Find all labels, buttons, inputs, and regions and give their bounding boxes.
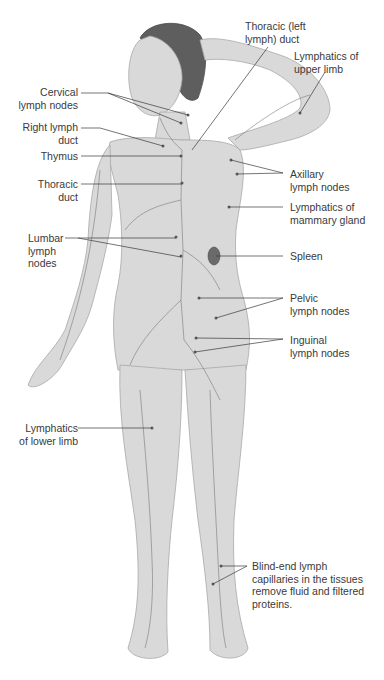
label-blind-end-capillaries: Blind-end lymph capillaries in the tissu…	[252, 560, 364, 610]
label-inguinal-lymph-nodes: Inguinal lymph nodes	[290, 334, 350, 359]
label-axillary-lymph-nodes: Axillary lymph nodes	[290, 168, 350, 193]
label-spleen: Spleen	[290, 250, 323, 263]
label-pelvic-lymph-nodes: Pelvic lymph nodes	[290, 292, 350, 317]
label-lymphatics-lower-limb: Lymphatics of lower limb	[19, 422, 78, 447]
label-right-lymph-duct: Right lymph duct	[23, 121, 78, 146]
label-lymphatics-upper-limb: Lymphatics of upper limb	[294, 50, 358, 75]
label-lymphatics-mammary-gland: Lymphatics of mammary gland	[290, 201, 365, 226]
label-thymus: Thymus	[41, 150, 78, 163]
label-cervical-lymph-nodes: Cervical lymph nodes	[18, 86, 78, 111]
label-lumbar-lymph-nodes: Lumbar lymph nodes	[28, 232, 64, 270]
label-thoracic-left-duct: Thoracic (left lymph) duct	[245, 20, 306, 45]
label-thoracic-duct: Thoracic duct	[38, 178, 78, 203]
